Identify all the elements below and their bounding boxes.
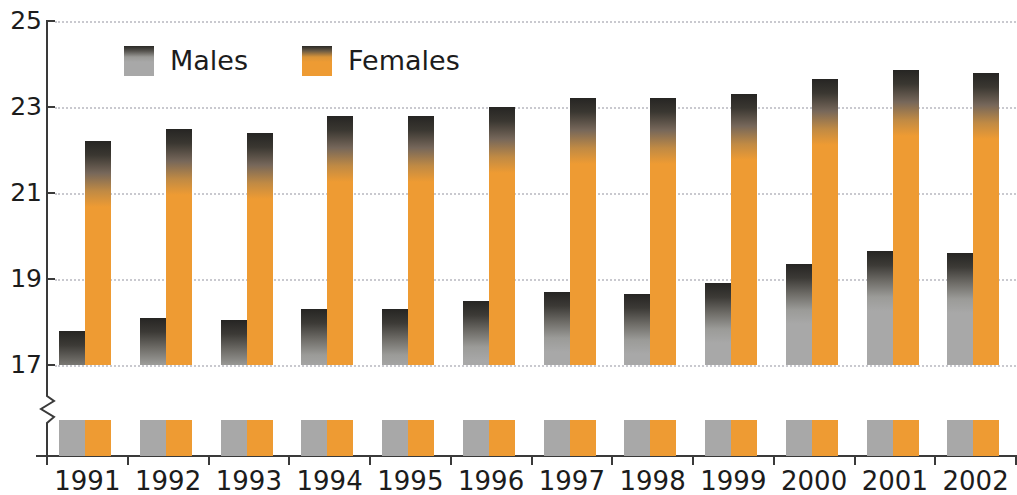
bar-males-1999 [705, 283, 731, 365]
x-tick-label-1996: 1996 [451, 466, 532, 495]
legend-swatch-female-icon [302, 46, 332, 76]
y-tick-label-25: 25 [0, 8, 42, 33]
bar-stub-females-1996 [489, 420, 515, 456]
bar-females-1992 [166, 129, 192, 366]
x-tick-label-1994: 1994 [289, 466, 370, 495]
bar-females-1995 [408, 116, 434, 365]
chart-legend: MalesFemales [124, 45, 460, 76]
bar-males-1997 [544, 292, 570, 365]
bar-stub-males-1993 [221, 420, 247, 456]
legend-item-females[interactable]: Females [302, 45, 460, 76]
bar-males-1993 [221, 320, 247, 365]
bar-stubs-below-break [47, 420, 1016, 456]
bar-stub-males-1992 [140, 420, 166, 456]
x-tick-label-1998: 1998 [612, 466, 693, 495]
legend-item-males[interactable]: Males [124, 45, 248, 76]
bar-males-1995 [382, 309, 408, 365]
bar-stub-females-1994 [327, 420, 353, 456]
bar-males-1992 [140, 318, 166, 365]
bar-stub-males-2001 [867, 420, 893, 456]
x-tick-label-2002: 2002 [935, 466, 1016, 495]
legend-gap [248, 60, 302, 61]
legend-label-females: Females [348, 45, 460, 76]
bar-stub-males-1994 [301, 420, 327, 456]
x-tick-mark-origin [46, 455, 48, 465]
y-tick-label-23: 23 [0, 94, 42, 119]
bar-stub-males-2000 [786, 420, 812, 456]
x-tick-mark-1994 [369, 455, 371, 465]
bar-males-1994 [301, 309, 327, 365]
bar-females-1998 [650, 98, 676, 365]
bar-females-1994 [327, 116, 353, 365]
x-tick-label-1991: 1991 [47, 466, 128, 495]
bar-stub-males-1995 [382, 420, 408, 456]
y-tick-label-17: 17 [0, 352, 42, 377]
bar-males-2002 [947, 253, 973, 365]
legend-label-males: Males [170, 45, 248, 76]
x-tick-mark-1997 [611, 455, 613, 465]
x-tick-mark-1998 [692, 455, 694, 465]
bar-stub-males-1996 [463, 420, 489, 456]
x-tick-mark-1995 [450, 455, 452, 465]
bar-stub-females-1998 [650, 420, 676, 456]
bar-stub-females-1991 [85, 420, 111, 456]
bar-stub-females-1995 [408, 420, 434, 456]
bar-females-1999 [731, 94, 757, 365]
x-tick-mark-2000 [854, 455, 856, 465]
bar-females-2001 [893, 70, 919, 365]
bar-females-1997 [570, 98, 596, 365]
x-tick-label-1995: 1995 [370, 466, 451, 495]
bar-females-1991 [85, 141, 111, 365]
x-tick-mark-1993 [288, 455, 290, 465]
bar-males-1996 [463, 301, 489, 366]
bar-stub-males-1999 [705, 420, 731, 456]
x-tick-label-2000: 2000 [774, 466, 855, 495]
bar-stub-males-1997 [544, 420, 570, 456]
x-tick-label-1997: 1997 [532, 466, 613, 495]
bar-males-2000 [786, 264, 812, 365]
x-tick-mark-1999 [773, 455, 775, 465]
bar-males-2001 [867, 251, 893, 365]
x-tick-label-1992: 1992 [128, 466, 209, 495]
bar-stub-females-2000 [812, 420, 838, 456]
legend-swatch-male-icon [124, 46, 154, 76]
gridline-17 [55, 365, 1016, 367]
x-tick-mark-1996 [531, 455, 533, 465]
x-tick-label-1999: 1999 [693, 466, 774, 495]
x-tick-mark-1992 [208, 455, 210, 465]
x-tick-mark-1991 [127, 455, 129, 465]
bar-stub-females-1992 [166, 420, 192, 456]
bar-stub-males-2002 [947, 420, 973, 456]
bar-stub-females-2002 [973, 420, 999, 456]
x-tick-label-1993: 1993 [209, 466, 290, 495]
bar-stub-females-2001 [893, 420, 919, 456]
bar-males-1998 [624, 294, 650, 365]
bar-females-2000 [812, 79, 838, 365]
bar-females-1993 [247, 133, 273, 365]
bar-females-2002 [973, 73, 999, 365]
bar-stub-females-1997 [570, 420, 596, 456]
bar-females-1996 [489, 107, 515, 365]
x-tick-mark-2001 [934, 455, 936, 465]
x-tick-label-2001: 2001 [855, 466, 936, 495]
bar-stub-females-1993 [247, 420, 273, 456]
y-tick-label-21: 21 [0, 180, 42, 205]
y-tick-label-19: 19 [0, 266, 42, 291]
bar-stub-females-1999 [731, 420, 757, 456]
bar-stub-males-1991 [59, 420, 85, 456]
bar-stub-males-1998 [624, 420, 650, 456]
bar-males-1991 [59, 331, 85, 365]
